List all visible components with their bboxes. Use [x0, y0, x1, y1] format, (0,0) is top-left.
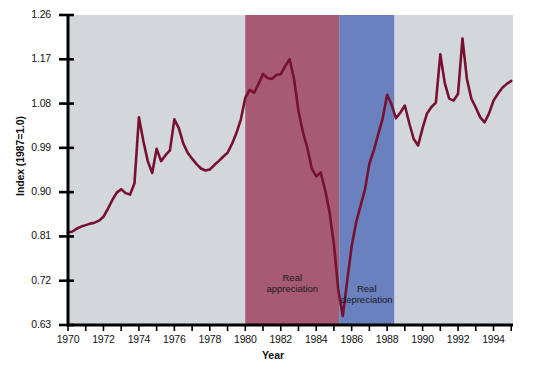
y-tick-label: 0.81	[11, 229, 51, 241]
y-tick-label: 0.63	[11, 318, 51, 330]
y-tick-label: 0.90	[11, 185, 51, 197]
y-tick-label: 1.26	[11, 8, 51, 20]
x-tick-label: 1984	[296, 333, 336, 345]
x-tick-label: 1972	[83, 333, 123, 345]
y-tick-label: 1.08	[11, 97, 51, 109]
annotation-line-1: Real	[247, 272, 337, 283]
y-tick-label: 0.72	[11, 274, 51, 286]
x-tick-label: 1990	[403, 333, 443, 345]
annotation-line-1: Real	[322, 283, 412, 294]
chart-plot-area	[0, 0, 546, 369]
annotation-line-2: depreciation	[322, 294, 412, 305]
x-tick-label: 1992	[438, 333, 478, 345]
y-tick-label: 0.99	[11, 141, 51, 153]
x-tick-label: 1994	[473, 333, 513, 345]
x-tick-label: 1986	[332, 333, 372, 345]
y-tick-label: 1.17	[11, 52, 51, 64]
x-tick-label: 1976	[154, 333, 194, 345]
x-tick-label: 1982	[261, 333, 301, 345]
x-tick-label: 1978	[190, 333, 230, 345]
x-tick-label: 1980	[225, 333, 265, 345]
chart-figure: Index (1987=1.0) Year 0.630.720.810.900.…	[0, 0, 546, 369]
x-tick-label: 1970	[48, 333, 88, 345]
x-tick-label: 1988	[367, 333, 407, 345]
x-tick-label: 1974	[119, 333, 159, 345]
annotation-real-depreciation: Realdepreciation	[322, 283, 412, 305]
